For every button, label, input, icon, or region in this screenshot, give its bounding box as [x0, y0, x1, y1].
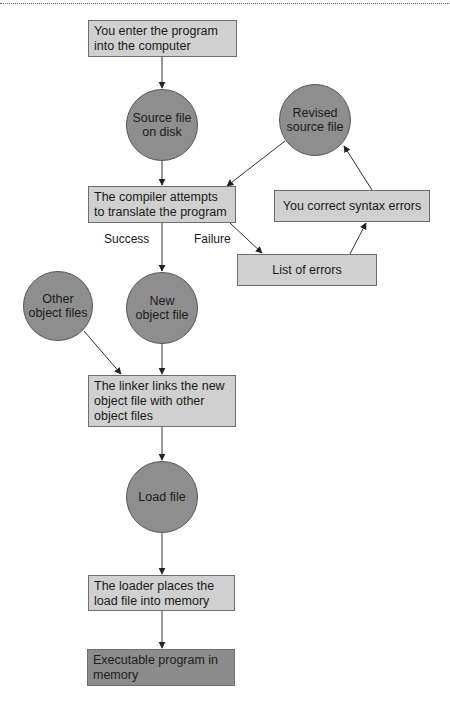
revised-source-text: Revised source file [285, 106, 345, 134]
new-object-text: New object file [132, 294, 192, 322]
compiler-text: The compiler attempts to translate the p… [94, 190, 227, 219]
load-file-circle: Load file [126, 461, 198, 533]
enter-program-box: You enter the program into the computer [88, 20, 237, 57]
revised-source-circle: Revised source file [279, 84, 351, 156]
source-file-circle: Source file on disk [126, 89, 198, 161]
executable-text: Executable program in memory [93, 653, 218, 682]
correct-errors-box: You correct syntax errors [274, 190, 430, 222]
correct-errors-text: You correct syntax errors [283, 199, 421, 214]
list-errors-box: List of errors [237, 254, 377, 286]
load-file-text: Load file [132, 490, 192, 504]
source-file-text: Source file on disk [132, 111, 192, 139]
compiler-box: The compiler attempts to translate the p… [88, 186, 236, 223]
other-object-circle: Other object files [23, 271, 93, 341]
other-object-text: Other object files [28, 292, 88, 320]
executable-box: Executable program in memory [87, 649, 235, 686]
loader-box: The loader places the load file into mem… [88, 575, 235, 611]
enter-program-text: You enter the program into the computer [94, 24, 218, 53]
new-object-circle: New object file [126, 272, 198, 344]
list-errors-text: List of errors [272, 263, 341, 278]
linker-text: The linker links the new object file wit… [94, 379, 225, 423]
linker-box: The linker links the new object file wit… [88, 375, 236, 427]
success-label: Success [104, 232, 149, 246]
failure-label: Failure [194, 232, 231, 246]
loader-text: The loader places the load file into mem… [94, 579, 214, 608]
